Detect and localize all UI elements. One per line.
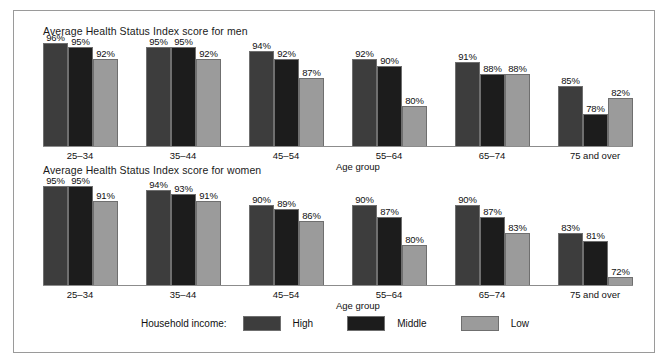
- legend-item-high: High: [243, 316, 314, 331]
- bar-low: 91%: [196, 201, 221, 285]
- bar-value-label: 95%: [149, 36, 168, 47]
- bar-middle: 88%: [480, 74, 505, 146]
- bar-low: 88%: [505, 74, 530, 146]
- bar-low: 82%: [608, 98, 633, 146]
- bar-group-bars: 94%93%91%: [146, 180, 221, 285]
- bar-value-label: 90%: [380, 55, 399, 66]
- bar-low: 80%: [402, 245, 427, 285]
- bar-value-label: 95%: [71, 36, 90, 47]
- bar-value-label: 93%: [174, 183, 193, 194]
- bar-high: 90%: [455, 205, 480, 285]
- bar-group-bars: 91%88%88%: [455, 41, 530, 146]
- legend-item-low: Low: [461, 316, 529, 331]
- bar-middle: 87%: [377, 217, 402, 285]
- x-axis-tick-label: 65–74: [479, 289, 505, 300]
- bar-high: 94%: [249, 51, 274, 146]
- bar-group: 90%87%83%65–74: [455, 180, 530, 285]
- bar-value-label: 92%: [277, 48, 296, 59]
- legend-swatch-middle: [347, 316, 385, 331]
- bar-middle: 90%: [377, 66, 402, 146]
- bar-middle: 95%: [171, 47, 196, 146]
- legend-swatch-low: [461, 316, 499, 331]
- bar-high: 96%: [43, 43, 68, 146]
- bar-value-label: 92%: [199, 48, 218, 59]
- x-axis-title-women: Age group: [336, 300, 380, 311]
- bar-value-label: 94%: [149, 179, 168, 190]
- x-axis-tick-label: 35–44: [170, 289, 196, 300]
- bar-value-label: 90%: [252, 194, 271, 205]
- bar-high: 85%: [558, 86, 583, 146]
- plot-area-men: 96%95%92%25–3495%95%92%35–4494%92%87%45–…: [43, 41, 633, 147]
- bar-low: 86%: [299, 221, 324, 285]
- bar-group-bars: 85%78%82%: [558, 41, 633, 146]
- plot-area-women: 95%95%91%25–3494%93%91%35–4490%89%86%45–…: [43, 180, 633, 286]
- x-axis-tick-label: 75 and over: [570, 289, 620, 300]
- bar-value-label: 94%: [252, 40, 271, 51]
- bar-group: 95%95%92%35–44: [146, 41, 221, 146]
- bar-high: 94%: [146, 190, 171, 285]
- bar-value-label: 88%: [483, 63, 502, 74]
- bar-high: 91%: [455, 62, 480, 146]
- bar-group-bars: 94%92%87%: [249, 41, 324, 146]
- bar-group-bars: 96%95%92%: [43, 41, 118, 146]
- legend: Household income: HighMiddleLow: [14, 311, 656, 335]
- bar-value-label: 83%: [561, 222, 580, 233]
- bar-middle: 81%: [583, 241, 608, 285]
- bar-middle: 78%: [583, 114, 608, 146]
- x-axis-tick-label: 55–64: [376, 289, 402, 300]
- bar-low: 91%: [93, 201, 118, 285]
- legend-title: Household income:: [141, 318, 227, 329]
- x-axis-tick-label: 55–64: [376, 150, 402, 161]
- bar-group-bars: 92%90%80%: [352, 41, 427, 146]
- bar-group: 96%95%92%25–34: [43, 41, 118, 146]
- legend-label: High: [293, 318, 314, 329]
- bar-low: 92%: [93, 59, 118, 146]
- bar-middle: 93%: [171, 194, 196, 285]
- bar-group: 95%95%91%25–34: [43, 180, 118, 285]
- bar-low: 72%: [608, 277, 633, 285]
- bar-high: 95%: [43, 186, 68, 285]
- x-axis-tick-label: 65–74: [479, 150, 505, 161]
- bar-value-label: 89%: [277, 198, 296, 209]
- x-axis-tick-label: 75 and over: [570, 150, 620, 161]
- bar-value-label: 80%: [405, 95, 424, 106]
- bar-group: 83%81%72%75 and over: [558, 180, 633, 285]
- bar-group-bars: 90%89%86%: [249, 180, 324, 285]
- x-axis-tick-label: 45–54: [273, 150, 299, 161]
- bar-low: 80%: [402, 106, 427, 146]
- bar-group: 90%87%80%55–64: [352, 180, 427, 285]
- bar-high: 90%: [249, 205, 274, 285]
- legend-label: Middle: [397, 318, 426, 329]
- legend-swatch-high: [243, 316, 281, 331]
- x-axis-line: [43, 285, 633, 286]
- figure-frame: Average Health Status Index score for me…: [13, 10, 655, 353]
- x-axis-tick-label: 45–54: [273, 289, 299, 300]
- bar-high: 95%: [146, 47, 171, 146]
- x-axis-tick-label: 35–44: [170, 150, 196, 161]
- bar-middle: 95%: [68, 47, 93, 146]
- bar-value-label: 91%: [199, 190, 218, 201]
- bar-middle: 87%: [480, 217, 505, 285]
- bar-group-bars: 90%87%80%: [352, 180, 427, 285]
- bar-value-label: 81%: [586, 230, 605, 241]
- bar-value-label: 90%: [458, 194, 477, 205]
- bar-group: 94%93%91%35–44: [146, 180, 221, 285]
- bar-value-label: 90%: [355, 194, 374, 205]
- bar-value-label: 95%: [174, 36, 193, 47]
- bar-group-bars: 95%95%91%: [43, 180, 118, 285]
- bar-value-label: 91%: [458, 51, 477, 62]
- bar-group: 92%90%80%55–64: [352, 41, 427, 146]
- bar-value-label: 87%: [380, 206, 399, 217]
- bar-group: 91%88%88%65–74: [455, 41, 530, 146]
- bar-group-bars: 83%81%72%: [558, 180, 633, 285]
- legend-label: Low: [511, 318, 529, 329]
- bar-value-label: 72%: [611, 266, 630, 277]
- bar-value-label: 91%: [96, 190, 115, 201]
- bar-middle: 92%: [274, 59, 299, 146]
- bar-high: 90%: [352, 205, 377, 285]
- bar-value-label: 87%: [302, 67, 321, 78]
- x-axis-tick-label: 25–34: [67, 289, 93, 300]
- bar-middle: 89%: [274, 209, 299, 285]
- chart-panel-men: Average Health Status Index score for me…: [14, 25, 656, 167]
- bar-low: 87%: [299, 78, 324, 146]
